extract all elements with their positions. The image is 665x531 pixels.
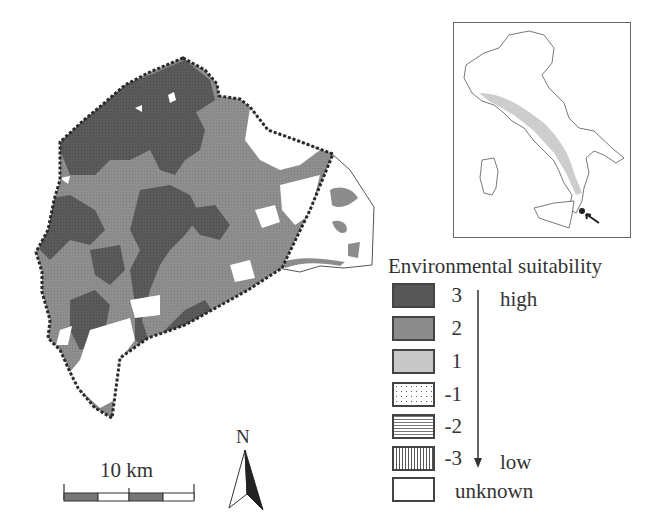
legend-swatch-minus-3 (392, 446, 435, 471)
legend-direction-arrow-icon (473, 290, 483, 470)
legend-swatch-unknown (392, 477, 435, 502)
study-area-map (0, 0, 400, 440)
legend-title: Environmental suitability (388, 254, 602, 279)
legend-value-minus-1: -1 (432, 382, 462, 407)
legend-swatch-minus-1 (392, 382, 435, 407)
legend-swatch-1 (392, 349, 435, 374)
sicily (534, 201, 574, 228)
sardinia (480, 158, 498, 195)
north-label: N (236, 426, 250, 448)
study-area-marker (579, 208, 585, 214)
north-arrow-icon (225, 448, 265, 512)
legend-swatch-2 (392, 316, 435, 341)
legend-high-label: high (500, 287, 537, 312)
legend-unknown-label: unknown (455, 479, 533, 504)
locator-arrow-icon (586, 214, 599, 223)
scale-bar (63, 480, 196, 502)
legend-value-2: 2 (432, 316, 462, 341)
legend-swatch-3 (392, 283, 435, 308)
legend-value-3: 3 (432, 283, 462, 308)
legend-swatch-minus-2 (392, 414, 435, 439)
legend-low-label: low (500, 450, 532, 475)
legend-value-minus-2: -2 (432, 414, 462, 439)
legend-value-minus-3: -3 (432, 446, 462, 471)
legend-value-1: 1 (432, 349, 462, 374)
italy-inset-map (453, 22, 631, 238)
